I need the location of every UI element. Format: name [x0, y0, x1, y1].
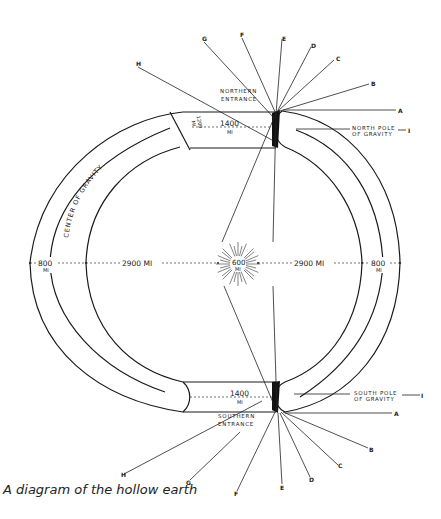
svg-text:I: I — [421, 392, 423, 399]
north-ray-a: A — [398, 107, 403, 114]
hollow-earth-diagram: 1400 MI 1200 MI NORTHERN ENTRANCE 1400 M… — [0, 0, 441, 519]
north-ray-d: D — [311, 42, 316, 49]
south-ray-b: B — [369, 446, 374, 453]
sun-diameter-unit: MI — [235, 266, 241, 272]
left-interior-distance: 2900 MI — [122, 259, 152, 268]
center-of-gravity-label: CENTER OF GRAVITY — [62, 163, 104, 238]
north-ray-c: C — [336, 55, 341, 62]
right-shell-unit: MI — [376, 267, 382, 273]
north-ray-g: G — [202, 35, 207, 42]
southern-entrance-label-2: ENTRANCE — [218, 421, 254, 427]
svg-text:I: I — [408, 127, 410, 134]
north-ray-b: B — [371, 80, 376, 87]
crust-thickness-unit: MI — [190, 120, 197, 127]
north-ray-h: H — [136, 60, 141, 67]
northern-entrance-label-2: ENTRANCE — [221, 96, 257, 102]
right-interior-distance: 2900 MI — [294, 259, 324, 268]
southern-tunnel: 1400 MI SOUTHERN ENTRANCE — [183, 381, 280, 427]
south-ray-a: A — [394, 410, 399, 417]
svg-text:OF GRAVITY: OF GRAVITY — [354, 396, 395, 402]
south-tunnel-unit: MI — [237, 399, 243, 405]
south-ray-f: F — [234, 490, 238, 497]
south-ray-c: C — [338, 462, 343, 469]
south-ray-e: E — [280, 484, 284, 491]
north-tunnel-unit: MI — [227, 129, 233, 135]
southern-entrance-label: SOUTHERN — [218, 413, 255, 419]
south-ray-d: D — [309, 476, 314, 483]
south-ray-h: H — [121, 471, 126, 478]
south-tunnel-distance: 1400 — [230, 389, 249, 398]
figure-caption: A diagram of the hollow earth — [3, 482, 197, 497]
south-pole-of-gravity: SOUTH POLE OF GRAVITY I — [354, 390, 423, 402]
central-sun-icon: 600 MI — [216, 242, 260, 286]
diameter-dimensions: 800 MI 2900 MI 2900 MI 800 MI — [29, 257, 401, 273]
left-shell-unit: MI — [43, 267, 49, 273]
svg-text:OF GRAVITY: OF GRAVITY — [352, 131, 393, 137]
north-ray-e: E — [282, 35, 286, 42]
north-pole-of-gravity: NORTH POLE OF GRAVITY I — [352, 125, 410, 137]
north-ray-f: F — [240, 31, 244, 38]
